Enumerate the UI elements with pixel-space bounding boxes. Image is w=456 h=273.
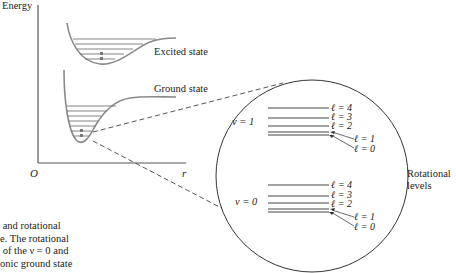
v0-level-l2: ℓ = 2 <box>331 198 352 209</box>
excited-state-label: Excited state <box>154 46 208 57</box>
rotational-inset-circle <box>216 80 408 272</box>
v1-level-l0: ℓ = 0 <box>354 143 375 154</box>
caption-line-2: e. The rotational <box>0 233 160 246</box>
ground-state-label: Ground state <box>154 83 208 94</box>
v0-level-l0: ℓ = 0 <box>354 221 375 232</box>
v1-label: ν = 1 <box>232 116 254 127</box>
caption-line-1: and rotational <box>0 220 160 233</box>
v1-level-l2: ℓ = 2 <box>331 120 352 131</box>
ground-state-curve <box>64 70 176 142</box>
x-axis-label: r <box>182 167 187 179</box>
excited-state-curve <box>67 23 176 64</box>
caption-line-4: onic ground state <box>0 258 160 271</box>
y-axis-label: Energy <box>2 0 33 11</box>
caption-line-3: of the ν = 0 and <box>0 245 160 258</box>
inset-title-line1: Rotational <box>407 168 451 179</box>
inset-title-line2: levels <box>407 180 432 191</box>
figure-caption: and rotational e. The rotational of the … <box>0 220 160 273</box>
origin-label: O <box>30 167 38 179</box>
v0-label: ν = 0 <box>235 196 258 207</box>
